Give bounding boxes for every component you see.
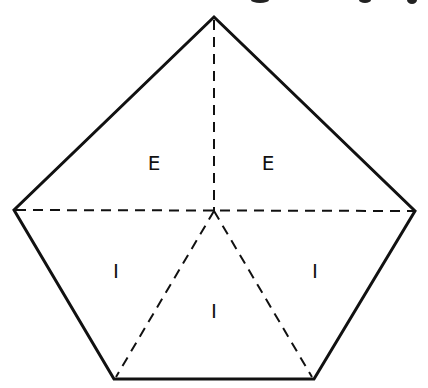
left-diagonal-dashed-line	[116, 211, 214, 377]
region-label-i-bottom: I	[211, 299, 217, 323]
region-label-i-right: I	[312, 259, 318, 283]
dashed-partition-lines	[16, 20, 413, 377]
pentagon-diagram: E E I I I	[0, 0, 428, 388]
right-diagonal-dashed-line	[214, 211, 312, 377]
region-label-e-right: E	[262, 151, 275, 175]
region-label-e-left: E	[148, 151, 161, 175]
region-label-i-left: I	[113, 259, 119, 283]
cropped-text-fragments	[251, 0, 417, 4]
